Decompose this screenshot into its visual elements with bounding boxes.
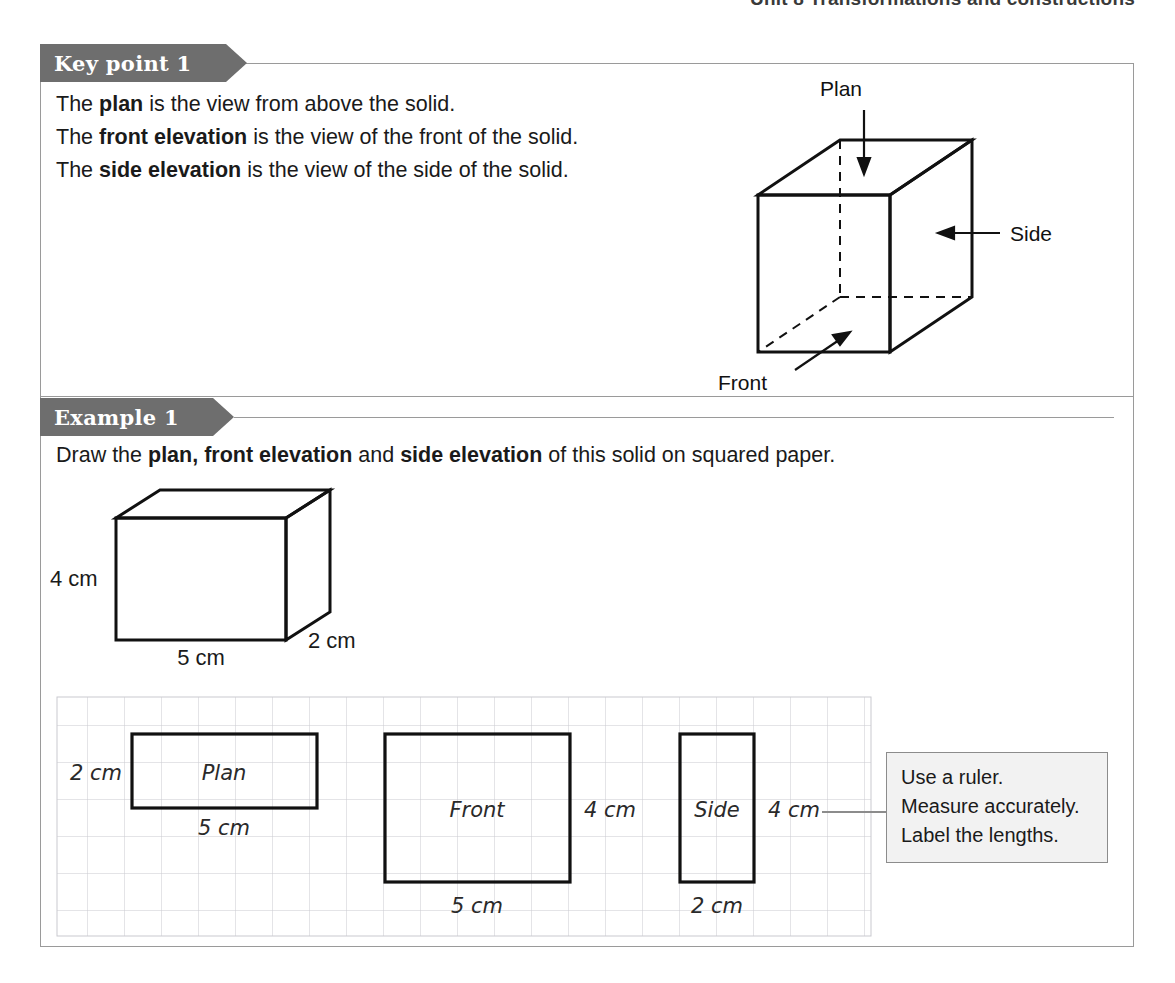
solid-right-face: [286, 490, 330, 640]
keypoint-flag: Key point 1: [40, 44, 226, 82]
hint-line-1: Use a ruler.: [901, 763, 1093, 792]
keypoint-line-3-term: side elevation: [99, 158, 241, 182]
running-head: Unit 8 Transformations and constructions: [0, 0, 1135, 10]
keypoint-line-2-prefix: The: [56, 125, 99, 149]
solid-front-face: [116, 518, 286, 640]
keypoint-line-2-term: front elevation: [99, 125, 247, 149]
example-instruction: Draw the plan, front elevation and side …: [56, 440, 956, 470]
keypoint-line-1: The plan is the view from above the soli…: [56, 88, 676, 121]
hint-box: Use a ruler. Measure accurately. Label t…: [886, 752, 1108, 863]
side-bottom-label: 2 cm: [691, 894, 743, 918]
side-arrow-label: Side: [1010, 222, 1052, 245]
plan-view-label: Plan: [202, 761, 247, 785]
keypoint-line-3: The side elevation is the view of the si…: [56, 154, 676, 187]
keypoint-cuboid-diagram: Plan Side Front: [700, 70, 1150, 400]
hint-line-2: Measure accurately.: [901, 792, 1093, 821]
example-banner-label: Example 1: [54, 405, 179, 430]
hint-connector-line: [822, 811, 886, 813]
keypoint-line-3-suffix: is the view of the side of the solid.: [241, 158, 568, 182]
example-banner: Example 1: [40, 398, 1114, 436]
side-arrow-head: [938, 227, 954, 239]
front-arrow-shaft: [795, 338, 842, 370]
front-arrow-label: Front: [718, 371, 767, 394]
instruction-part-1: Draw the: [56, 443, 148, 467]
example-flag: Example 1: [40, 398, 213, 436]
squared-paper-figure: Plan 2 cm 5 cm Front 4 cm 5 cm Side 4 cm…: [50, 688, 880, 943]
keypoint-banner-label: Key point 1: [54, 51, 192, 76]
instruction-term-1: plan, front elevation: [148, 443, 352, 467]
side-side-label: 4 cm: [768, 798, 820, 822]
keypoint-banner-rule: [247, 63, 1097, 64]
example-banner-rule: [234, 417, 1114, 418]
solid-height-label: 4 cm: [50, 566, 98, 591]
keypoint-line-2: The front elevation is the view of the f…: [56, 121, 676, 154]
cuboid-front-face: [758, 195, 890, 352]
instruction-term-2: side elevation: [400, 443, 542, 467]
instruction-part-2: and: [352, 443, 400, 467]
front-view-label: Front: [449, 798, 505, 822]
keypoint-banner: Key point 1: [40, 44, 1097, 82]
front-side-label: 4 cm: [584, 798, 636, 822]
keypoint-text: The plan is the view from above the soli…: [56, 88, 676, 187]
cuboid-hidden-diagonal: [758, 297, 840, 352]
plan-arrow-head: [858, 158, 870, 174]
cuboid-right-face: [890, 140, 972, 352]
hint-line-3: Label the lengths.: [901, 821, 1093, 850]
keypoint-line-1-suffix: is the view from above the solid.: [143, 92, 455, 116]
plan-bottom-label: 5 cm: [198, 816, 250, 840]
solid-top-face: [116, 490, 330, 518]
side-view-label: Side: [694, 798, 739, 822]
instruction-part-3: of this solid on squared paper.: [542, 443, 835, 467]
example-solid-diagram: 4 cm 5 cm 2 cm: [50, 485, 390, 665]
solid-width-label: 5 cm: [177, 645, 225, 665]
front-bottom-label: 5 cm: [451, 894, 503, 918]
solid-depth-label: 2 cm: [308, 628, 356, 653]
keypoint-line-2-suffix: is the view of the front of the solid.: [247, 125, 578, 149]
keypoint-line-1-prefix: The: [56, 92, 99, 116]
plan-side-label: 2 cm: [70, 761, 122, 785]
keypoint-line-1-term: plan: [99, 92, 143, 116]
keypoint-line-3-prefix: The: [56, 158, 99, 182]
